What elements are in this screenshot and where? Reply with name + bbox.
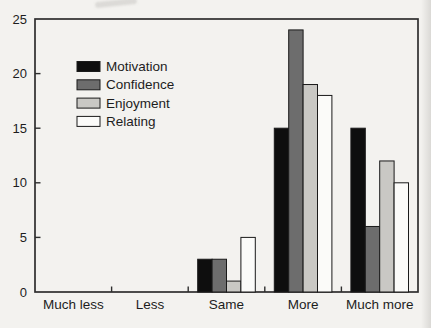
bar-motivation-same — [198, 259, 212, 292]
scan-artifact-right-edge — [421, 0, 431, 328]
legend-swatch-enjoyment — [77, 98, 100, 108]
legend-swatch-relating — [77, 116, 100, 126]
legend-label-relating: Relating — [106, 114, 156, 129]
bar-enjoyment-much-more — [380, 161, 394, 292]
legend-label-confidence: Confidence — [106, 77, 174, 92]
y-tick-label-20: 20 — [13, 66, 27, 81]
bar-confidence-more — [289, 30, 303, 292]
legend-swatch-motivation — [77, 62, 100, 72]
legend-label-enjoyment: Enjoyment — [106, 96, 170, 111]
bar-relating-same — [241, 237, 255, 292]
legend-swatch-confidence — [77, 80, 100, 90]
x-category-label-more: More — [288, 297, 319, 312]
y-tick-label-10: 10 — [13, 175, 27, 190]
bar-motivation-much-more — [351, 128, 365, 292]
y-tick-label-0: 0 — [20, 285, 27, 300]
bar-enjoyment-more — [303, 85, 317, 292]
bar-confidence-same — [212, 259, 226, 292]
bar-enjoyment-same — [227, 281, 241, 292]
bar-chart-figure: 0510152025Much lessLessSameMoreMuch more… — [0, 0, 431, 328]
bar-relating-more — [318, 95, 332, 292]
y-tick-label-15: 15 — [13, 121, 27, 136]
bar-relating-much-more — [394, 183, 408, 292]
y-tick-label-5: 5 — [20, 230, 27, 245]
x-category-label-much-more: Much more — [346, 297, 414, 312]
x-category-label-much-less: Much less — [43, 297, 104, 312]
legend-label-motivation: Motivation — [106, 59, 168, 74]
grouped-bar-chart: 0510152025Much lessLessSameMoreMuch more… — [0, 0, 431, 328]
x-category-label-less: Less — [136, 297, 165, 312]
x-category-label-same: Same — [209, 297, 244, 312]
bar-confidence-much-more — [365, 226, 379, 292]
bar-motivation-more — [274, 128, 288, 292]
y-tick-label-25: 25 — [13, 12, 27, 27]
